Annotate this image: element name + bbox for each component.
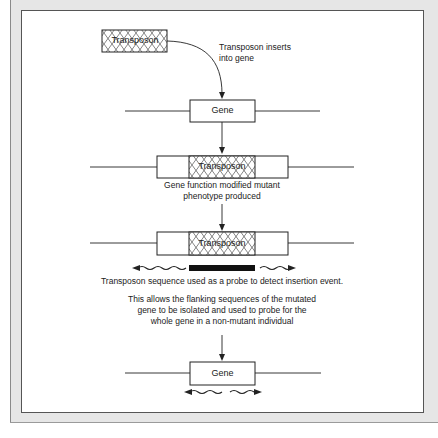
phenotype-caption-line-1: Gene function modified mutant [122,180,322,191]
probe-caption: Transposon sequence used as a probe to d… [42,276,402,287]
gene-label-4: Gene [190,368,255,379]
flanking-caption-line-1: This allows the flanking sequences of th… [72,294,372,305]
flanking-caption: This allows the flanking sequences of th… [72,294,372,327]
transposon-label-row-3: Transposon [189,238,255,249]
phenotype-caption-line-2: phenotype produced [122,191,322,202]
flanking-probe-left [184,389,222,395]
transposon-label-row-2: Transposon [189,161,255,172]
flanking-caption-line-3: whole gene in a non-mutant individual [72,316,372,327]
insertion-arrow [167,41,222,94]
flanking-probe-right [230,389,262,395]
probe-bar [189,265,255,271]
phenotype-caption: Gene function modified mutant phenotype … [122,180,322,202]
flanking-sequence-left [132,265,186,271]
insertion-caption: Transposon inserts into gene [219,42,291,64]
insertion-caption-line-1: Transposon inserts [219,42,291,53]
flanking-sequence-right [260,265,296,271]
flanking-caption-line-2: gene to be isolated and used to probe fo… [72,305,372,316]
insertion-caption-line-2: into gene [219,53,291,64]
transposon-label-top: Transposon [104,35,166,46]
gene-label-1: Gene [190,105,255,116]
